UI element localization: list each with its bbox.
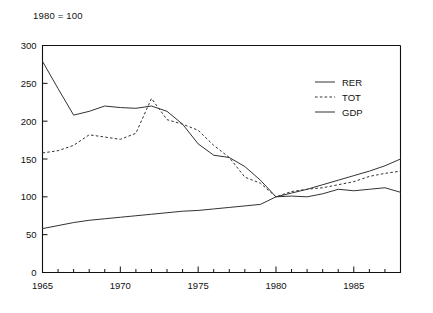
- y-tick-label: 300: [21, 40, 37, 51]
- legend-label-gdp: GDP: [342, 107, 363, 118]
- legend-label-rer: RER: [342, 77, 362, 88]
- chart-container: 1980 = 100 050100150200250300 1965197019…: [0, 0, 433, 313]
- y-tick-label: 150: [21, 154, 37, 165]
- legend-label-tot: TOT: [342, 92, 361, 103]
- chart-plot-area: 050100150200250300 19651970197519801985 …: [0, 0, 433, 313]
- x-tick-label: 1980: [265, 280, 286, 291]
- x-tick-label: 1985: [343, 280, 364, 291]
- y-tick-label: 0: [31, 267, 36, 278]
- x-tick-label: 1965: [32, 280, 53, 291]
- x-tick-label: 1970: [110, 280, 131, 291]
- y-tick-label: 50: [26, 229, 37, 240]
- y-axis-ticks: 050100150200250300: [21, 40, 48, 278]
- y-tick-label: 200: [21, 116, 37, 127]
- series-line-gdp: [43, 159, 401, 229]
- y-tick-label: 100: [21, 191, 37, 202]
- y-tick-label: 250: [21, 78, 37, 89]
- x-axis-ticks: 19651970197519801985: [32, 267, 364, 291]
- chart-legend: RERTOTGDP: [315, 77, 363, 118]
- x-tick-label: 1975: [188, 280, 209, 291]
